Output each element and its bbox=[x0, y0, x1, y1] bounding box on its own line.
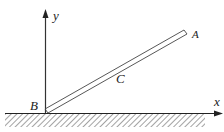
ground-hatching bbox=[5, 114, 205, 127]
diagram-canvas: y x A B C bbox=[0, 0, 224, 132]
point-b-label: B bbox=[30, 98, 38, 113]
y-axis-label: y bbox=[51, 8, 59, 23]
y-axis bbox=[43, 9, 49, 113]
x-axis-arrow-icon bbox=[214, 111, 223, 117]
point-c-label: C bbox=[116, 71, 125, 86]
x-axis-label: x bbox=[213, 94, 220, 109]
y-axis-arrow-icon bbox=[43, 9, 49, 18]
point-a-label: A bbox=[191, 28, 199, 40]
